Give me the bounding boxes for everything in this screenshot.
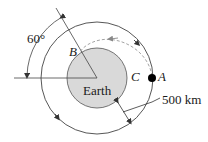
trajectory-arrow-icon (110, 38, 118, 39)
earth-label: Earth (83, 83, 112, 98)
point-c-label: C (131, 69, 140, 84)
satellite-dot (148, 74, 156, 82)
point-b-label: B (69, 44, 77, 59)
angle-label: 60° (27, 31, 45, 46)
altitude-leader (123, 98, 160, 112)
altitude-label: 500 km (162, 92, 201, 107)
angle-arc (27, 17, 62, 76)
point-a-label: A (157, 69, 166, 84)
orbit-arrow-top (134, 40, 138, 44)
orbit-diagram: 60° B C A Earth 500 km (0, 0, 208, 142)
